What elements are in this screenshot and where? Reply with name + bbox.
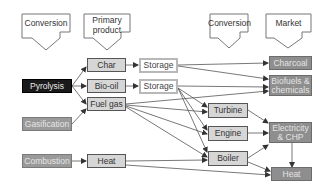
- conversion-boiler[interactable]: Boiler: [208, 151, 248, 166]
- header-primary-product: Primary product: [84, 15, 130, 35]
- header-conversion-right: Conversion: [208, 18, 250, 28]
- product-char[interactable]: Char: [87, 58, 126, 72]
- market-biofuels-chemicals[interactable]: Biofuels & chemicals: [269, 75, 312, 96]
- market-charcoal[interactable]: Charcoal: [269, 56, 312, 70]
- conversion-engine[interactable]: Engine: [208, 126, 248, 141]
- process-combustion[interactable]: Combustion: [22, 154, 72, 168]
- market-electricity-chp[interactable]: Electricity & CHP: [269, 122, 312, 143]
- product-bio-oil[interactable]: Bio-oil: [87, 79, 126, 93]
- storage-char[interactable]: Storage: [139, 58, 178, 73]
- storage-bio-oil[interactable]: Storage: [139, 79, 178, 94]
- conversion-turbine[interactable]: Turbine: [208, 103, 248, 118]
- product-fuel-gas[interactable]: Fuel gas: [87, 97, 126, 111]
- market-heat[interactable]: Heat: [271, 167, 312, 181]
- header-conversion-left: Conversion: [22, 18, 70, 28]
- header-market: Market: [266, 18, 311, 28]
- product-heat[interactable]: Heat: [87, 154, 126, 168]
- process-gasification[interactable]: Gasification: [22, 117, 72, 131]
- process-pyrolysis[interactable]: Pyrolysis: [22, 79, 72, 93]
